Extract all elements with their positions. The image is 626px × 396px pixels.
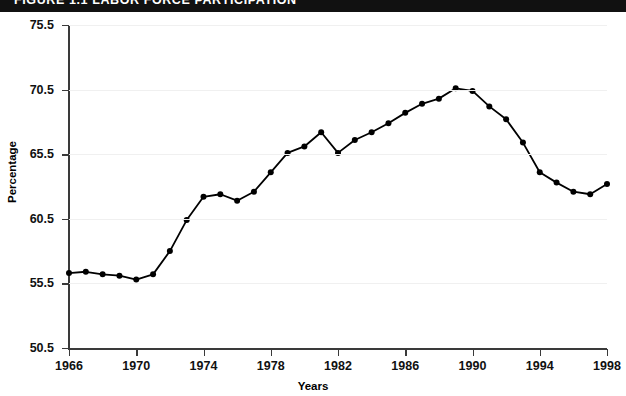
x-axis-tick-label: 1974 bbox=[190, 359, 218, 373]
x-axis-tick-label: 1994 bbox=[526, 359, 554, 373]
x-axis-tick-label: 1982 bbox=[324, 359, 352, 373]
x-axis-tick bbox=[136, 349, 137, 356]
data-point bbox=[537, 169, 543, 175]
y-axis-tick bbox=[62, 154, 69, 155]
data-point bbox=[352, 137, 358, 143]
data-point bbox=[369, 129, 375, 135]
data-point bbox=[116, 273, 122, 279]
chart-area: Percentage Years 50.555.560.565.570.575.… bbox=[0, 14, 626, 396]
data-point bbox=[217, 191, 223, 197]
y-axis-tick bbox=[62, 90, 69, 91]
y-axis-tick bbox=[62, 348, 69, 349]
x-axis-tick bbox=[405, 349, 406, 356]
x-axis-title: Years bbox=[0, 380, 626, 392]
x-axis-tick-label: 1990 bbox=[459, 359, 487, 373]
figure-banner-title: FIGURE 1.1 LABOR FORCE PARTICIPATION bbox=[14, 0, 297, 7]
data-point bbox=[604, 181, 610, 187]
x-axis-tick bbox=[69, 349, 70, 356]
x-axis-tick-label: 1978 bbox=[257, 359, 285, 373]
gridline bbox=[69, 219, 607, 220]
x-axis-tick bbox=[338, 349, 339, 356]
data-point bbox=[486, 103, 492, 109]
data-point bbox=[419, 101, 425, 107]
x-axis-tick-label: 1998 bbox=[593, 359, 621, 373]
data-point bbox=[133, 277, 139, 283]
data-point bbox=[150, 271, 156, 277]
y-axis-tick bbox=[62, 283, 69, 284]
y-axis-tick-label: 75.5 bbox=[8, 18, 54, 32]
x-axis-tick-label: 1966 bbox=[55, 359, 83, 373]
data-point bbox=[167, 248, 173, 254]
x-axis-tick bbox=[271, 349, 272, 356]
y-axis-tick-label: 60.5 bbox=[8, 212, 54, 226]
data-point bbox=[83, 269, 89, 275]
data-point bbox=[268, 169, 274, 175]
data-point bbox=[385, 120, 391, 126]
x-axis-tick-label: 1970 bbox=[122, 359, 150, 373]
x-axis-tick-label: 1986 bbox=[391, 359, 419, 373]
data-point bbox=[100, 271, 106, 277]
data-series-line bbox=[69, 25, 607, 348]
y-axis-tick bbox=[62, 25, 69, 26]
x-axis-tick bbox=[473, 349, 474, 356]
gridline bbox=[69, 154, 607, 155]
data-point bbox=[402, 110, 408, 116]
y-axis-tick-label: 50.5 bbox=[8, 341, 54, 355]
plot-region bbox=[69, 25, 607, 348]
data-point bbox=[201, 194, 207, 200]
data-point bbox=[251, 189, 257, 195]
data-point bbox=[234, 198, 240, 204]
y-axis-tick-label: 65.5 bbox=[8, 147, 54, 161]
data-point bbox=[318, 129, 324, 135]
y-axis-tick-label: 55.5 bbox=[8, 276, 54, 290]
data-point bbox=[436, 96, 442, 102]
data-point bbox=[66, 270, 72, 276]
gridline bbox=[69, 283, 607, 284]
x-axis-tick bbox=[607, 349, 608, 356]
data-point bbox=[554, 180, 560, 186]
data-point bbox=[587, 191, 593, 197]
data-point bbox=[503, 116, 509, 122]
data-point bbox=[520, 140, 526, 146]
series-polyline bbox=[69, 88, 607, 279]
y-axis-tick bbox=[62, 219, 69, 220]
x-axis-tick bbox=[540, 349, 541, 356]
x-axis-tick bbox=[204, 349, 205, 356]
gridline bbox=[69, 25, 607, 26]
data-point bbox=[570, 189, 576, 195]
data-point bbox=[301, 143, 307, 149]
gridline bbox=[69, 90, 607, 91]
y-axis-tick-label: 70.5 bbox=[8, 83, 54, 97]
figure-banner: FIGURE 1.1 LABOR FORCE PARTICIPATION bbox=[0, 0, 626, 12]
